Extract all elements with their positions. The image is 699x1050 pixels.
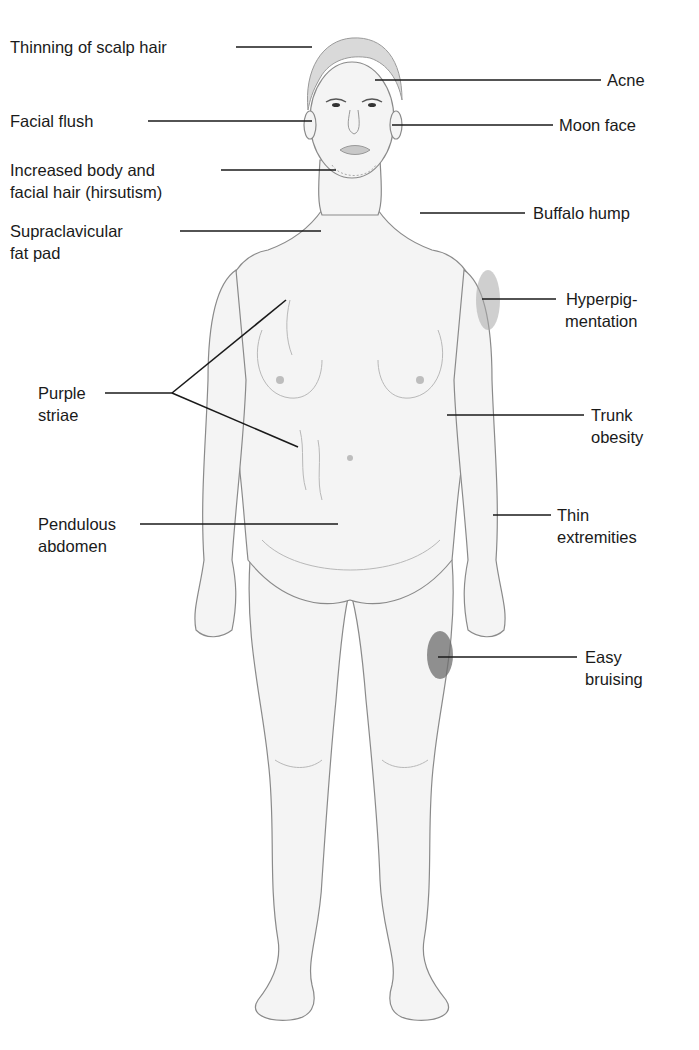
label-pendulous-abdomen: Pendulous abdomen bbox=[38, 513, 116, 557]
label-line: Buffalo hump bbox=[533, 202, 630, 224]
label-line: Thinning of scalp hair bbox=[10, 36, 167, 58]
label-easy-bruising: Easy bruising bbox=[585, 646, 643, 690]
label-line: Moon face bbox=[559, 114, 636, 136]
label-thin-extremities: Thin extremities bbox=[557, 504, 637, 548]
label-line: facial hair (hirsutism) bbox=[10, 181, 162, 203]
label-moon-face: Moon face bbox=[559, 114, 636, 136]
label-line: Trunk bbox=[591, 404, 643, 426]
label-line: extremities bbox=[557, 526, 637, 548]
label-line: striae bbox=[38, 404, 86, 426]
label-hirsutism: Increased body and facial hair (hirsutis… bbox=[10, 159, 162, 203]
label-line: Hyperpig- bbox=[565, 288, 637, 310]
label-facial-flush: Facial flush bbox=[10, 110, 93, 132]
label-trunk-obesity: Trunk obesity bbox=[591, 404, 643, 448]
label-purple-striae: Purple striae bbox=[38, 382, 86, 426]
label-buffalo-hump: Buffalo hump bbox=[533, 202, 630, 224]
label-line: abdomen bbox=[38, 535, 116, 557]
label-line: Acne bbox=[607, 69, 645, 91]
label-line: mentation bbox=[565, 310, 637, 332]
label-line: Facial flush bbox=[10, 110, 93, 132]
label-line: Increased body and bbox=[10, 159, 162, 181]
label-line: Thin bbox=[557, 504, 637, 526]
label-thinning-scalp-hair: Thinning of scalp hair bbox=[10, 36, 167, 58]
label-line: fat pad bbox=[10, 242, 123, 264]
label-line: obesity bbox=[591, 426, 643, 448]
label-line: Supraclavicular bbox=[10, 220, 123, 242]
label-supraclavicular-fat-pad: Supraclavicular fat pad bbox=[10, 220, 123, 264]
label-acne: Acne bbox=[607, 69, 645, 91]
label-line: Easy bbox=[585, 646, 643, 668]
body-figure bbox=[195, 38, 505, 1020]
label-hyperpigmentation: Hyperpig- mentation bbox=[565, 288, 637, 332]
label-line: Purple bbox=[38, 382, 86, 404]
label-line: bruising bbox=[585, 668, 643, 690]
label-line: Pendulous bbox=[38, 513, 116, 535]
